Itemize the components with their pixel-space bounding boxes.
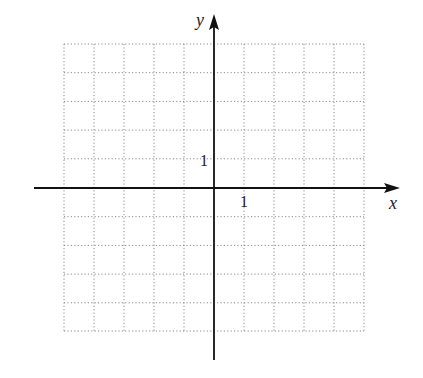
y-axis-label: y — [194, 10, 204, 30]
x-axis-label: x — [388, 193, 397, 213]
y-tick-label: 1 — [200, 152, 208, 169]
x-axis — [34, 183, 400, 193]
coordinate-plane: y x 1 1 — [0, 0, 423, 378]
x-tick-label: 1 — [240, 193, 248, 210]
y-axis — [209, 14, 219, 360]
